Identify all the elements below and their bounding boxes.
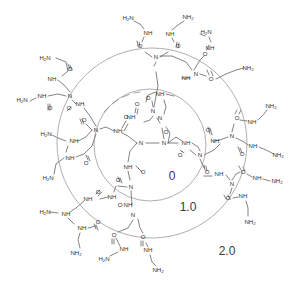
atom-label-nh: NH bbox=[48, 75, 57, 82]
atom-label-nh: NH bbox=[239, 192, 248, 199]
atom-label-nh: NH bbox=[127, 113, 136, 120]
atom-label-o: O bbox=[235, 114, 240, 121]
atom-label-nh: NH bbox=[182, 74, 191, 81]
generation-label-2: 2.0 bbox=[219, 244, 236, 258]
atom-label-nh: NH bbox=[249, 142, 258, 149]
atom-label-nh: NH bbox=[114, 127, 123, 134]
atom-label-o: O bbox=[82, 116, 87, 123]
atom-label-nh: NH bbox=[62, 210, 71, 217]
atom-label-o: O bbox=[67, 104, 72, 111]
atom-label-h2n: H2N bbox=[98, 255, 109, 263]
atom-label-nh2: NH2 bbox=[242, 64, 254, 72]
atom-label-o: O bbox=[84, 159, 89, 166]
atom-label-nh: NH bbox=[66, 154, 75, 161]
atom-label-nh2: NH2 bbox=[265, 102, 277, 110]
atom-label-o: O bbox=[146, 94, 151, 101]
atom-label-nh: NH bbox=[124, 163, 133, 170]
atom-label-n: N bbox=[198, 151, 202, 158]
atom-label-h2n: H2N bbox=[122, 14, 133, 22]
atom-label-o: O bbox=[203, 50, 208, 57]
atom-label-nh2: NH2 bbox=[271, 177, 283, 185]
generation-label-1: 1.0 bbox=[180, 200, 197, 214]
atom-label-nh2: NH2 bbox=[272, 151, 284, 159]
atom-label-o: O bbox=[96, 218, 101, 225]
atom-label-nh: NH bbox=[253, 174, 262, 181]
atom-label-n: N bbox=[154, 53, 158, 60]
atom-label-nh: NH bbox=[156, 90, 165, 97]
atom-label-n: N bbox=[131, 211, 135, 218]
atom-label-nh2: NH2 bbox=[244, 218, 256, 226]
atom-label-n: N bbox=[129, 183, 133, 190]
atom-label-o: O bbox=[240, 150, 245, 157]
atom-label-nh: NH bbox=[206, 44, 215, 51]
atom-label-nh: NH bbox=[84, 195, 93, 202]
atom-label-o: O bbox=[135, 100, 140, 107]
atom-label-n: N bbox=[139, 139, 143, 146]
atom-label-nh: NH bbox=[248, 118, 257, 125]
atom-label-nh2: NH2 bbox=[152, 266, 164, 274]
atom-label-o: O bbox=[206, 126, 211, 133]
atom-label-o: O bbox=[118, 201, 123, 208]
atom-label-n: N bbox=[230, 180, 234, 187]
atom-label-o: O bbox=[112, 231, 117, 238]
atom-label-nh: NH bbox=[144, 246, 153, 253]
atom-label-nh: NH bbox=[38, 92, 47, 99]
atom-label-o: O bbox=[116, 176, 121, 183]
atom-label-nh: NH bbox=[120, 245, 129, 252]
atom-label-h2n: H2N bbox=[39, 208, 50, 216]
atom-label-nh: NH bbox=[182, 139, 191, 146]
atom-label-o: O bbox=[226, 194, 231, 201]
atom-label-nh: NH bbox=[76, 100, 85, 107]
atom-label-n: N bbox=[194, 70, 198, 77]
atom-label-o: O bbox=[96, 188, 101, 195]
atom-label-n: N bbox=[158, 114, 162, 121]
atom-label-n: N bbox=[151, 107, 155, 114]
atom-label-o: O bbox=[138, 42, 143, 49]
bond-network bbox=[30, 21, 274, 266]
atom-label-o: O bbox=[141, 168, 146, 175]
atom-label-h2n: H2N bbox=[16, 96, 27, 104]
atom-label-o: O bbox=[205, 168, 210, 175]
atom-label-nh: NH bbox=[70, 137, 79, 144]
atom-label-o: O bbox=[141, 233, 146, 240]
atom-label-nh: NH bbox=[166, 30, 175, 37]
atom-label-n: N bbox=[162, 139, 166, 146]
atom-label-nh: NH bbox=[108, 193, 117, 200]
atom-label-nh: NH bbox=[215, 170, 224, 177]
dendrimer-figure: NNNHONONHH2NNHOH2NNHONONHNHOH2NNHONHNH2N… bbox=[0, 0, 299, 286]
dendrimer-structure-svg: NNNHONONHH2NNHOH2NNHONONHNHOH2NNHONHNH2N… bbox=[0, 0, 299, 286]
atom-label-o: O bbox=[176, 42, 181, 49]
atom-label-o: O bbox=[241, 168, 246, 175]
atom-label-n: N bbox=[94, 126, 98, 133]
atom-label-n: N bbox=[230, 132, 234, 139]
generation-label-group: 01.02.0 bbox=[169, 169, 236, 258]
atom-label-nh: NH bbox=[124, 201, 133, 208]
atom-label-h2n: H2N bbox=[39, 54, 50, 62]
atom-label-nh: NH bbox=[78, 224, 87, 231]
atom-label-n: N bbox=[68, 92, 72, 99]
atom-label-nh: NH bbox=[211, 137, 220, 144]
atom-label-nh2: NH2 bbox=[182, 13, 194, 21]
atom-label-o: O bbox=[209, 75, 214, 82]
generation-label-0: 0 bbox=[169, 169, 176, 183]
atom-label-h2n: H2N bbox=[42, 174, 53, 182]
atom-label-nh2: NH2 bbox=[70, 249, 82, 257]
atom-label-o: O bbox=[178, 151, 183, 158]
atom-label-h2n: H2N bbox=[40, 130, 51, 138]
atom-label-o: O bbox=[164, 128, 169, 135]
atom-label-o: O bbox=[68, 65, 73, 72]
atom-label-nh: NH bbox=[144, 29, 153, 36]
atom-label-o: O bbox=[48, 104, 53, 111]
